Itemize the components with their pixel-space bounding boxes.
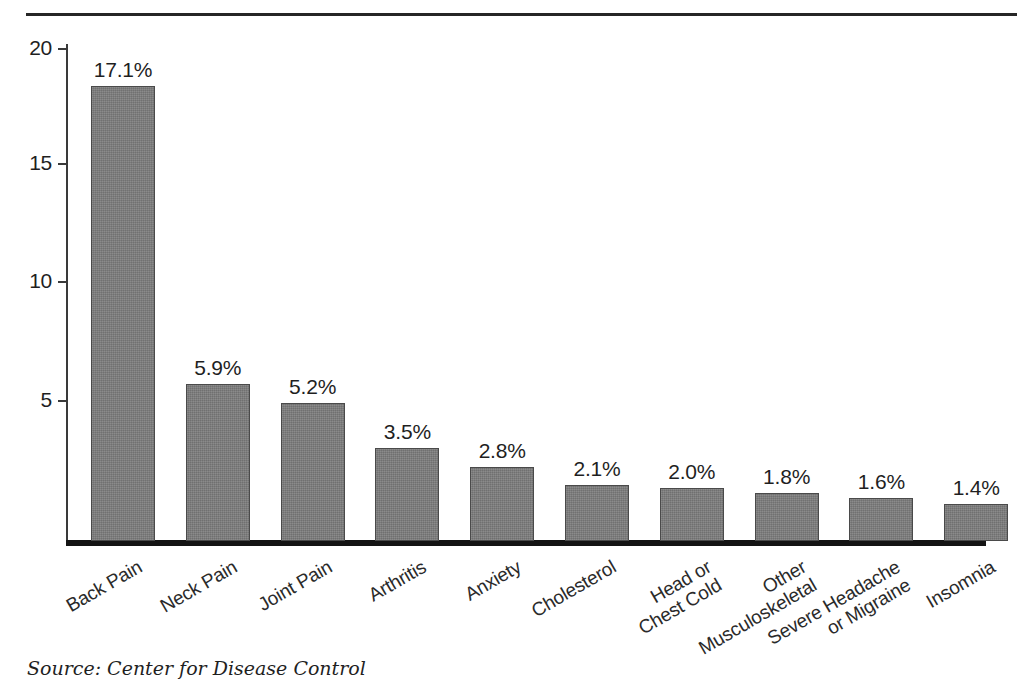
y-tick-10 [58,281,68,283]
bar [281,403,345,541]
plot-area: 20 15 10 5 17.1%5.9%5.2%3.5%2.8%2.1%2.0%… [0,0,1017,560]
source-note: Source: Center for Disease Control [27,657,366,679]
category-label: Neck Pain [74,556,240,664]
bar-value-label: 1.8% [737,466,837,488]
bar-value-label: 1.4% [926,477,1017,499]
bar-value-label: 2.1% [547,458,647,480]
chart-figure: 20 15 10 5 17.1%5.9%5.2%3.5%2.8%2.1%2.0%… [0,0,1017,690]
bar-value-label: 3.5% [357,421,457,443]
bar-value-label: 5.9% [168,357,268,379]
category-label-line: Insomnia [923,556,999,612]
bar [375,448,439,541]
bar [470,467,534,541]
category-label: Joint Pain [169,556,335,664]
bar [660,488,724,541]
bar [91,86,155,541]
category-label-line: Neck Pain [156,556,240,617]
y-axis-line [66,44,68,542]
bar [186,384,250,541]
bar [565,485,629,541]
bar-value-label: 2.0% [642,461,742,483]
bar-value-label: 5.2% [263,376,363,398]
y-tick-20 [58,48,68,50]
category-label-line: Anxiety [461,556,524,605]
y-tick-5 [58,400,68,402]
category-label: Anxiety [358,556,524,664]
category-label: Back Pain [0,556,145,664]
bar-value-label: 2.8% [452,440,552,462]
bar [755,493,819,541]
y-tick-label-20: 20 [12,37,52,58]
bar-value-label: 1.6% [831,471,931,493]
category-label-line: Joint Pain [254,556,335,615]
y-tick-15 [58,163,68,165]
y-tick-label-5: 5 [12,389,52,410]
bar-value-label: 17.1% [73,59,173,81]
category-label: Arthritis [264,556,430,664]
bar [849,498,913,541]
y-tick-label-15: 15 [12,152,52,173]
category-label-line: Back Pain [62,556,145,616]
bar [944,504,1008,541]
y-tick-label-10: 10 [12,270,52,291]
category-label-line: Arthritis [365,556,430,605]
